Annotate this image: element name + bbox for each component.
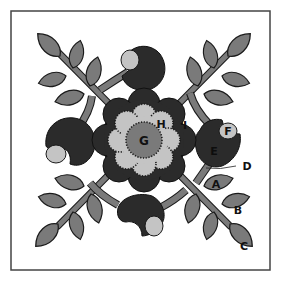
bud-left — [46, 118, 95, 165]
label-D: D — [242, 160, 251, 173]
label-A: A — [212, 178, 221, 191]
label-F: F — [224, 125, 232, 138]
label-E: E — [210, 145, 218, 158]
label-G: G — [139, 134, 149, 148]
label-I: I — [183, 119, 187, 132]
label-C: C — [240, 240, 248, 253]
bud-top — [121, 46, 165, 90]
label-B: B — [234, 204, 242, 217]
quilt-block-diagram: A B C D E F G H I — [0, 0, 288, 281]
label-H: H — [156, 118, 165, 131]
